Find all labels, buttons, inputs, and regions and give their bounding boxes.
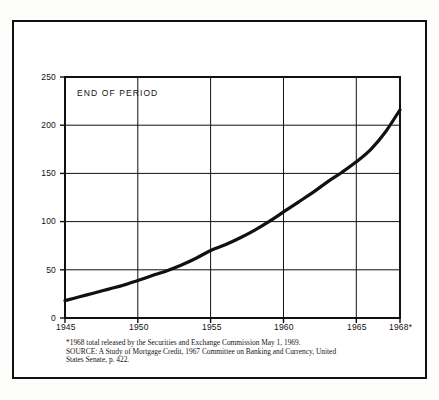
y-axis-label-200: 200 — [28, 120, 56, 130]
x-axis-label-1950: 1950 — [129, 322, 149, 332]
end-of-period-annotation: END OF PERIOD — [77, 88, 158, 98]
chart-page: 250 200 150 100 50 0 1945 1950 1955 1960… — [0, 0, 439, 400]
y-axis-label-100: 100 — [28, 216, 56, 226]
y-axis-label-0: 0 — [28, 313, 56, 323]
footnote-block: *1968 total released by the Securities a… — [66, 339, 376, 365]
y-axis-label-250: 250 — [28, 72, 56, 82]
y-axis-label-150: 150 — [28, 168, 56, 178]
chart-figure: 250 200 150 100 50 0 1945 1950 1955 1960… — [0, 0, 439, 400]
x-axis-label-1960: 1960 — [274, 322, 294, 332]
plot-background — [65, 77, 400, 318]
y-axis-label-50: 50 — [28, 265, 56, 275]
x-axis-label-1945: 1945 — [56, 322, 76, 332]
footnote-line-3: States Senate, p. 422. — [66, 356, 376, 365]
x-axis-label-1968: 1968* — [389, 322, 412, 332]
x-axis-label-1965: 1965 — [347, 322, 367, 332]
x-axis-label-1955: 1955 — [202, 322, 222, 332]
